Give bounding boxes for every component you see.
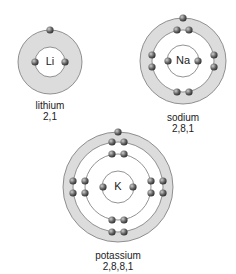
lithium-label: lithium 2,1 bbox=[20, 100, 80, 122]
sodium-configuration: 2,8,1 bbox=[153, 123, 213, 134]
potassium-name: potassium bbox=[83, 250, 153, 261]
sodium-label: sodium 2,8,1 bbox=[153, 112, 213, 134]
sodium-symbol: Na bbox=[171, 55, 195, 66]
potassium-label: potassium 2,8,8,1 bbox=[83, 250, 153, 272]
atom-diagrams bbox=[0, 0, 236, 274]
lithium-configuration: 2,1 bbox=[20, 111, 80, 122]
sodium-name: sodium bbox=[153, 112, 213, 123]
potassium-configuration: 2,8,8,1 bbox=[83, 261, 153, 272]
lithium-symbol: Li bbox=[40, 56, 60, 67]
lithium-name: lithium bbox=[20, 100, 80, 111]
potassium-symbol: K bbox=[108, 181, 128, 192]
